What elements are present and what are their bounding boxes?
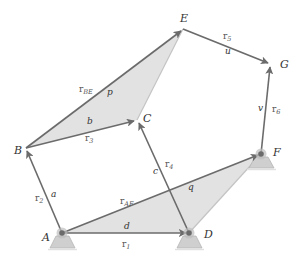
point-label-a: A (41, 231, 50, 244)
length-label-d: d (124, 221, 130, 231)
linkage-diagram: A B C D E F G r1 d r2 a r3 b r4 c r5 u r… (0, 0, 299, 268)
vector-r2 (27, 151, 62, 233)
length-label-u: u (225, 46, 231, 56)
vector-label-r2: r2 (35, 193, 43, 205)
pin-f (256, 149, 267, 160)
length-label-q: q (188, 182, 194, 192)
vector-label-r5: r5 (223, 31, 231, 43)
vector-label-r1: r1 (122, 239, 130, 251)
length-label-p: p (107, 87, 113, 97)
length-label-v: v (258, 103, 263, 113)
length-label-a: a (51, 189, 56, 199)
length-label-c: c (153, 166, 158, 176)
vector-label-r3: r3 (85, 133, 93, 145)
pin-d (184, 228, 195, 239)
point-label-g: G (280, 58, 289, 71)
vector-rbe (26, 31, 181, 148)
point-label-b: B (13, 144, 22, 157)
point-label-e: E (179, 12, 188, 25)
vector-label-r6: r6 (272, 104, 280, 116)
point-label-c: C (143, 112, 152, 125)
pin-a (57, 228, 68, 239)
length-label-b: b (87, 116, 93, 126)
point-label-d: D (203, 228, 213, 241)
point-label-f: F (272, 146, 281, 159)
vector-label-raf: rAF (120, 196, 134, 208)
vector-label-rbe: rBE (79, 84, 93, 96)
vector-label-r4: r4 (165, 159, 173, 171)
